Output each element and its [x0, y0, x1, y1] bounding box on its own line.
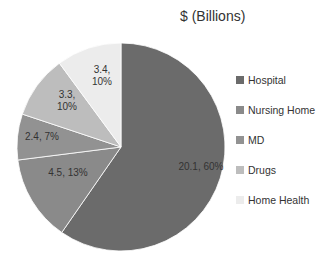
legend-swatch-hospital [236, 76, 244, 84]
legend-swatch-home-health [236, 196, 244, 204]
legend-label: Drugs [248, 164, 276, 176]
pie-chart: 20.1, 60%4.5, 13%2.4, 7%3.3,10%3.4,10% [0, 0, 328, 259]
legend-label: Nursing Home [248, 104, 315, 116]
slice-data-label: 2.4, 7% [25, 131, 59, 142]
legend-swatch-nursing-home [236, 106, 244, 114]
slice-data-label: 20.1, 60% [178, 161, 223, 172]
slice-data-label: 3.3,10% [57, 89, 77, 112]
legend-item-home-health: Home Health [236, 193, 309, 207]
legend-item-drugs: Drugs [236, 163, 276, 177]
legend-label: MD [248, 134, 264, 146]
legend-item-md: MD [236, 133, 264, 147]
legend-label: Home Health [248, 194, 309, 206]
slice-data-label: 4.5, 13% [48, 167, 88, 178]
slice-data-label: 3.4,10% [92, 64, 112, 87]
legend-item-hospital: Hospital [236, 73, 286, 87]
legend-item-nursing-home: Nursing Home [236, 103, 315, 117]
legend-swatch-md [236, 136, 244, 144]
legend-label: Hospital [248, 74, 286, 86]
legend-swatch-drugs [236, 166, 244, 174]
